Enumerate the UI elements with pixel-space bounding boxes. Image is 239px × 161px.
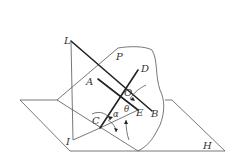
- plane-h: [20, 100, 225, 151]
- label-alpha: α: [113, 109, 119, 119]
- label-theta: θ: [124, 104, 129, 114]
- label-p: P: [115, 51, 123, 62]
- line-lb: [71, 41, 152, 111]
- label-l: L: [63, 35, 71, 46]
- label-a: A: [85, 76, 93, 87]
- label-e: E: [135, 107, 144, 118]
- label-c: C: [92, 115, 100, 126]
- arrow-icon: [114, 128, 118, 132]
- arrow-icon: [124, 120, 128, 124]
- label-d: D: [140, 63, 149, 74]
- label-o: O: [124, 87, 132, 98]
- label-h: H: [202, 140, 212, 151]
- label-b: B: [150, 108, 158, 119]
- geometry-diagram: L P D A O B E θ α C I H: [0, 0, 239, 161]
- label-i: I: [65, 136, 71, 147]
